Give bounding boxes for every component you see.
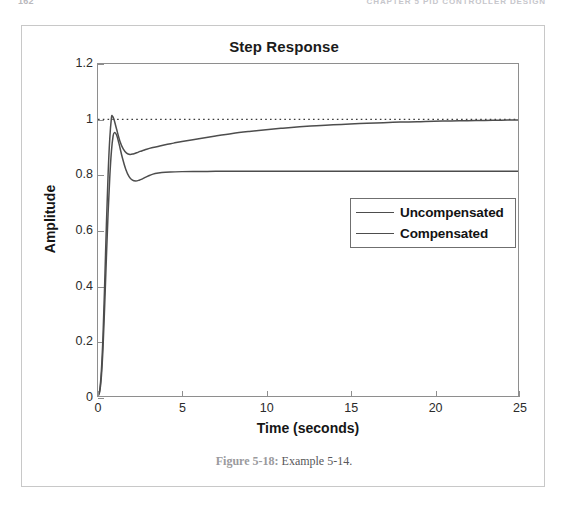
legend-item-compensated: Compensated bbox=[351, 223, 515, 244]
x-tick-mark bbox=[98, 391, 99, 397]
x-tick-mark bbox=[267, 391, 268, 397]
figure-caption-label: Figure 5-18: bbox=[216, 454, 279, 468]
figure-caption-text: Example 5-14. bbox=[279, 454, 353, 468]
page-running-header: 162 CHAPTER 5 PID CONTROLLER DESIGN bbox=[0, 0, 568, 14]
x-axis-title: Time (seconds) bbox=[97, 420, 519, 436]
x-tick-mark bbox=[351, 391, 352, 397]
x-tick-label: 15 bbox=[331, 401, 371, 415]
figure-card: Step Response 00.20.40.60.811.2 05101520… bbox=[21, 25, 545, 487]
x-tick-label: 25 bbox=[500, 401, 540, 415]
x-tick-mark bbox=[519, 391, 520, 397]
y-tick-label: 1.2 bbox=[59, 56, 93, 70]
series-line-uncompensated bbox=[98, 115, 518, 396]
x-tick-label: 5 bbox=[162, 401, 202, 415]
page-number: 162 bbox=[18, 0, 34, 6]
y-tick-label: 0.6 bbox=[59, 223, 93, 237]
x-tick-label: 0 bbox=[78, 401, 118, 415]
figure-caption: Figure 5-18: Example 5-14. bbox=[22, 454, 546, 469]
legend-item-uncompensated: Uncompensated bbox=[351, 202, 515, 223]
y-tick-label: 0.8 bbox=[59, 167, 93, 181]
x-tick-mark bbox=[182, 391, 183, 397]
x-axis-tick-marks bbox=[98, 391, 519, 399]
x-tick-label: 20 bbox=[416, 401, 456, 415]
y-axis-tick-labels: 00.20.40.60.811.2 bbox=[55, 63, 93, 397]
y-tick-label: 1 bbox=[59, 112, 93, 126]
chart-legend: Uncompensated Compensated bbox=[350, 198, 516, 248]
series-line-compensated bbox=[98, 133, 518, 396]
running-head-title: CHAPTER 5 PID CONTROLLER DESIGN bbox=[367, 0, 546, 6]
x-tick-label: 10 bbox=[247, 401, 287, 415]
legend-label: Compensated bbox=[400, 226, 488, 241]
y-axis-title: Amplitude bbox=[42, 129, 58, 309]
x-tick-mark bbox=[436, 391, 437, 397]
legend-line-icon bbox=[356, 212, 394, 213]
y-tick-label: 0.4 bbox=[59, 279, 93, 293]
legend-label: Uncompensated bbox=[400, 205, 504, 220]
legend-line-icon bbox=[356, 233, 394, 234]
step-response-chart: Step Response 00.20.40.60.811.2 05101520… bbox=[22, 26, 546, 450]
chart-title: Step Response bbox=[22, 38, 546, 55]
y-tick-label: 0.2 bbox=[59, 334, 93, 348]
x-axis-tick-labels: 0510152025 bbox=[98, 401, 519, 421]
